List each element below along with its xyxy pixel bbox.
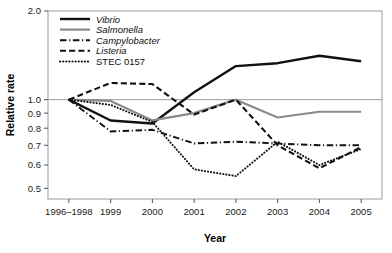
x-axis-title: Year (204, 232, 226, 244)
x-tick-label: 2003 (267, 206, 288, 217)
legend-label-vibrio: Vibrio (96, 14, 120, 25)
y-tick-label: 0.9 (28, 108, 41, 119)
y-tick-label: 1.0 (28, 94, 41, 105)
y-tick-label: 0.8 (28, 123, 41, 134)
x-tick-label: 2000 (142, 206, 163, 217)
x-tick-label: 1996–1998 (45, 206, 93, 217)
legend-label-campylobacter: Campylobacter (96, 35, 161, 46)
relative-rate-line-chart: 2.01.00.90.80.70.60.5 1996–1998199920002… (0, 0, 392, 253)
legend-label-salmonella: Salmonella (96, 24, 143, 35)
legend-label-listeria: Listeria (96, 45, 127, 56)
x-tick-label: 1999 (100, 206, 121, 217)
y-tick-label: 0.5 (28, 183, 41, 194)
y-tick-label: 0.7 (28, 140, 41, 151)
x-tick-label: 2002 (225, 206, 246, 217)
legend-label-stec-0157: STEC 0157 (96, 56, 145, 67)
y-tick-label: 2.0 (28, 5, 41, 16)
chart-figure: 2.01.00.90.80.70.60.5 1996–1998199920002… (0, 0, 392, 253)
x-tick-label: 2004 (309, 206, 330, 217)
y-axis-title: Relative rate (4, 74, 16, 137)
x-tick-label: 2005 (351, 206, 372, 217)
y-tick-label: 0.6 (28, 159, 41, 170)
x-tick-label: 2001 (184, 206, 205, 217)
